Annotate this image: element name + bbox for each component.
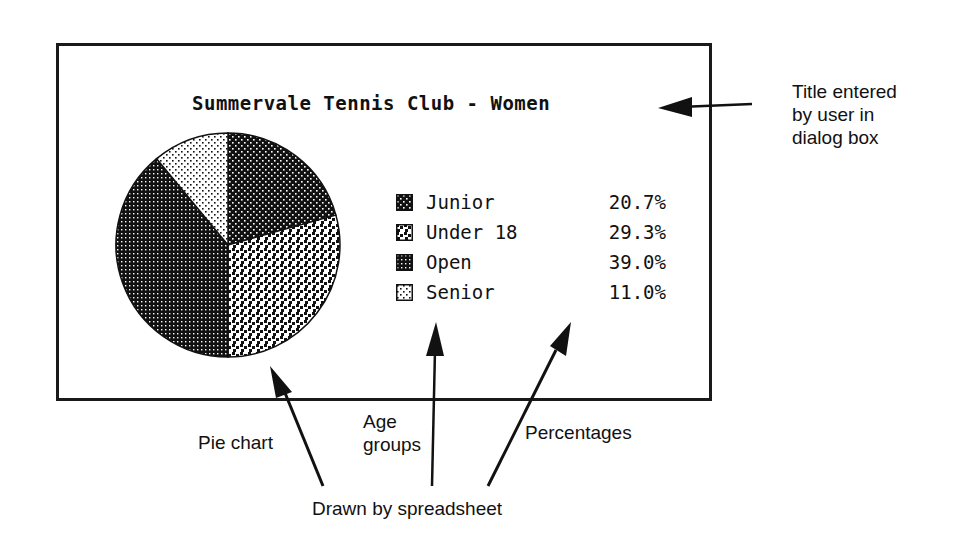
- legend-label: Open: [426, 251, 576, 273]
- pie-chart-arrow: [270, 366, 323, 486]
- legend-label: Senior: [426, 281, 576, 303]
- legend-item-open: Open 39.0%: [396, 247, 666, 277]
- age-groups-line-2: groups: [363, 433, 421, 456]
- percentages-arrow: [488, 322, 571, 486]
- legend-item-senior: Senior 11.0%: [396, 277, 666, 307]
- age-groups-arrow: [426, 322, 444, 486]
- drawn-by-label: Drawn by spreadsheet: [312, 497, 502, 520]
- swatch-under-18-icon: [396, 224, 413, 241]
- chart-legend: Junior 20.7% Under 18 29.3% Open 39.0% S…: [396, 187, 666, 307]
- pie-chart: [116, 133, 340, 357]
- pie-chart-label: Pie chart: [198, 431, 273, 454]
- title-note-line-1: Title entered: [792, 80, 897, 103]
- age-groups-line-1: Age: [363, 410, 421, 433]
- chart-title: Summervale Tennis Club - Women: [192, 92, 550, 114]
- legend-label: Junior: [426, 191, 576, 213]
- percentages-label: Percentages: [525, 421, 632, 444]
- swatch-open-icon: [396, 254, 413, 271]
- title-note-line-2: by user in: [792, 103, 897, 126]
- title-arrow: [658, 97, 752, 117]
- swatch-senior-icon: [396, 284, 413, 301]
- title-note-line-3: dialog box: [792, 126, 897, 149]
- legend-label: Under 18: [426, 221, 576, 243]
- legend-item-under-18: Under 18 29.3%: [396, 217, 666, 247]
- legend-value: 11.0%: [576, 281, 666, 303]
- swatch-junior-icon: [396, 194, 413, 211]
- legend-value: 20.7%: [576, 191, 666, 213]
- title-note: Title entered by user in dialog box: [792, 80, 897, 149]
- legend-item-junior: Junior 20.7%: [396, 187, 666, 217]
- legend-value: 39.0%: [576, 251, 666, 273]
- age-groups-label: Age groups: [363, 410, 421, 456]
- legend-value: 29.3%: [576, 221, 666, 243]
